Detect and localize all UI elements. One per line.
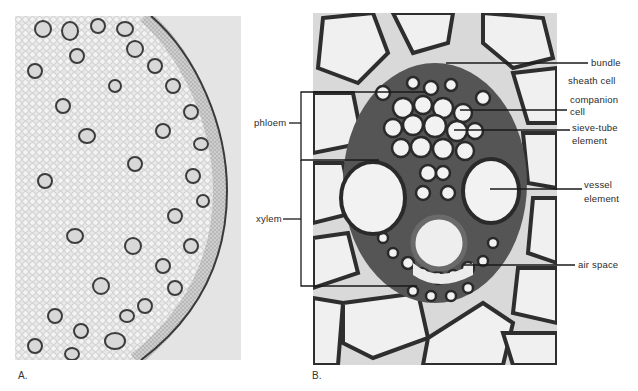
sieve-tube-label-line2: element <box>572 135 607 146</box>
panel-a-stem-cross-section <box>15 16 241 360</box>
air-space-label: air space <box>578 259 618 270</box>
companion-cell-label-line2: cell <box>570 106 585 117</box>
vascular-bundle-micrograph <box>313 13 557 365</box>
panel-b-label: B. <box>312 370 321 381</box>
panel-b-vascular-bundle <box>313 13 557 365</box>
vessel-element-label-line1: vessel <box>584 179 612 190</box>
bundle-sheath-label-line2: sheath cell <box>568 75 616 86</box>
bundle-sheath-label-line1: bundle <box>591 57 621 68</box>
phloem-label: phloem <box>254 117 286 128</box>
stem-cross-section-micrograph <box>15 16 241 360</box>
sieve-tube-label-line1: sieve-tube <box>572 122 618 133</box>
xylem-label: xylem <box>256 213 282 224</box>
vessel-element-label-line2: element <box>584 193 619 204</box>
panel-a-label: A. <box>18 370 27 381</box>
companion-cell-label-line1: companion <box>570 94 618 105</box>
